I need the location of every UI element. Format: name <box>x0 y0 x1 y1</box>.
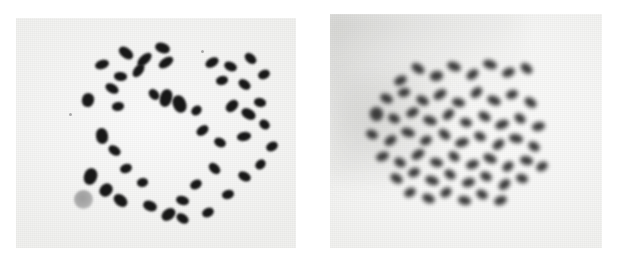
chromosome <box>440 106 456 122</box>
chromosome <box>365 127 380 140</box>
chromosome <box>136 176 149 187</box>
chromosome <box>222 59 238 73</box>
chromosome <box>189 177 204 191</box>
chromosome <box>257 117 271 131</box>
chromosome <box>494 117 510 131</box>
chromosome <box>81 92 96 108</box>
chromosome <box>388 171 404 186</box>
chromosome <box>221 188 235 200</box>
chromosome <box>457 194 472 206</box>
chromosome <box>451 96 466 108</box>
chromosome <box>473 129 488 143</box>
chromosome <box>515 172 529 184</box>
chromosome <box>204 55 221 70</box>
chromosome <box>111 191 130 209</box>
chromosome <box>236 169 252 183</box>
chromosome <box>482 151 499 165</box>
chromosome <box>508 132 524 144</box>
chromosome <box>439 185 454 199</box>
chromosome <box>482 58 498 71</box>
chromosome <box>97 181 115 199</box>
figure-root: Metaphase chromosome spreads Well-spread… <box>0 0 634 261</box>
chromosome <box>94 58 110 71</box>
chromosome <box>400 126 416 139</box>
chromosome <box>242 50 258 65</box>
chromosome <box>253 96 267 107</box>
chromosome <box>213 135 228 148</box>
chromosome <box>119 162 133 175</box>
chromosome <box>257 67 272 80</box>
chromosome <box>446 59 462 73</box>
micrograph-panel-right <box>330 14 602 248</box>
chromosome <box>206 160 222 176</box>
chromosome <box>464 66 480 81</box>
chromosome <box>422 113 438 126</box>
chromosome <box>387 111 402 125</box>
chromosome <box>468 84 484 99</box>
chromosome <box>393 155 408 169</box>
chromosome <box>142 199 159 214</box>
chromosome <box>410 146 427 161</box>
chromosome <box>496 176 512 191</box>
chromosome <box>392 73 408 87</box>
chromosome <box>414 93 430 107</box>
chromosome <box>500 65 516 79</box>
dust-speck-top-icon <box>201 50 204 53</box>
chromosome <box>117 44 136 62</box>
chromosome <box>429 156 444 168</box>
chromosome <box>223 98 240 115</box>
chromosome <box>464 158 479 171</box>
dust-speck-left-icon <box>69 113 72 116</box>
chromosome <box>215 74 229 86</box>
chromosome <box>518 60 534 75</box>
chromosome <box>159 205 178 223</box>
chromosome <box>404 105 420 119</box>
chromosome <box>265 139 280 153</box>
micrograph-panel-left <box>16 18 296 248</box>
chromosome <box>419 133 434 146</box>
chromosome <box>424 173 440 186</box>
chromosome <box>378 91 394 105</box>
chromosome <box>432 86 449 101</box>
chromosome <box>505 88 519 101</box>
chromosome <box>236 77 252 92</box>
chromosome <box>253 157 267 171</box>
chromosome <box>447 149 462 164</box>
chromosome <box>519 154 534 166</box>
chromosome <box>429 70 444 82</box>
chromosome <box>106 143 122 158</box>
chromosome <box>104 81 121 96</box>
chromosome <box>443 167 458 181</box>
chromosome <box>436 126 452 141</box>
chromosome <box>157 54 175 70</box>
chromosome <box>535 159 550 173</box>
chromosome <box>513 111 528 125</box>
chromosome <box>95 127 109 145</box>
chromosome <box>410 60 427 75</box>
chromosome <box>236 130 251 141</box>
chromosome <box>113 71 127 81</box>
chromosome <box>475 187 490 201</box>
chromosome <box>189 103 203 117</box>
chromosome <box>479 169 494 183</box>
chromosome <box>454 136 470 149</box>
chromosome <box>461 176 476 188</box>
chromosome <box>368 106 383 122</box>
chromosome <box>459 116 473 128</box>
chromosome <box>153 41 171 56</box>
chromosome <box>194 123 210 138</box>
chromosome <box>420 191 436 205</box>
chromosome <box>175 194 190 206</box>
chromosome <box>201 205 216 218</box>
chromosome <box>486 93 502 107</box>
chromosome <box>407 165 422 178</box>
film-grain-texture-left <box>16 18 296 248</box>
chromosome <box>522 95 538 110</box>
chromosome <box>382 133 398 148</box>
chromosome <box>111 101 124 112</box>
chromosome <box>501 159 516 173</box>
gray-debris-dot-icon <box>74 190 93 209</box>
chromosome <box>81 166 99 186</box>
chromosome <box>397 86 411 98</box>
chromosome <box>527 139 542 153</box>
